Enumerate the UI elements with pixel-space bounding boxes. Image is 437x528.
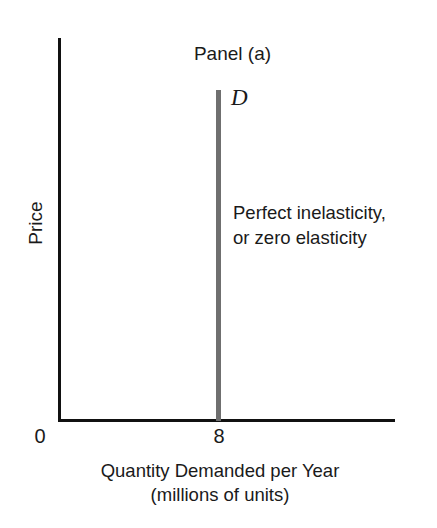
elasticity-annotation: Perfect inelasticity, or zero elasticity bbox=[233, 200, 423, 250]
x-axis-title: Quantity Demanded per Year (millions of … bbox=[40, 459, 400, 507]
demand-curve bbox=[216, 90, 221, 421]
y-axis-line bbox=[58, 38, 61, 422]
panel-title: Panel (a) bbox=[150, 42, 315, 65]
x-axis-line bbox=[58, 419, 395, 422]
demand-curve-label: D bbox=[231, 86, 248, 110]
annotation-line-1: Perfect inelasticity, bbox=[233, 200, 423, 225]
annotation-line-2: or zero elasticity bbox=[233, 225, 423, 250]
elasticity-figure-panel-a: Panel (a) D Perfect inelasticity, or zer… bbox=[0, 0, 437, 528]
y-axis-title: Price bbox=[25, 183, 47, 263]
x-axis-title-line-1: Quantity Demanded per Year bbox=[40, 459, 400, 483]
x-axis-title-line-2: (millions of units) bbox=[40, 483, 400, 507]
x-axis-tick-label-8: 8 bbox=[205, 424, 233, 448]
x-axis-origin-label: 0 bbox=[26, 424, 54, 448]
